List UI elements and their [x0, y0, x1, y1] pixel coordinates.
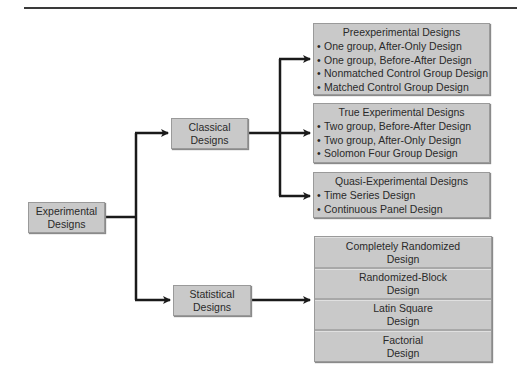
box-title: True Experimental Designs — [314, 106, 489, 119]
list-item: •Continuous Panel Design — [314, 203, 489, 217]
box-title: Preexperimental Designs — [314, 26, 489, 39]
bullet-icon: • — [317, 54, 324, 68]
node-label-line2: Designs — [193, 301, 231, 314]
node-label-line1: Randomized-Block — [359, 271, 447, 284]
bullet-icon: • — [317, 40, 324, 54]
list-item: •Nonmatched Control Group Design — [314, 67, 489, 81]
node-label-line2: Design — [387, 347, 420, 360]
factorial-design-box: Factorial Design — [315, 331, 491, 362]
list-item: •Solomon Four Group Design — [314, 147, 489, 161]
node-label-line2: Designs — [191, 134, 229, 147]
bullet-icon: • — [317, 120, 324, 134]
quasi-experimental-designs-box: Quasi-Experimental Designs •Time Series … — [313, 172, 490, 218]
bullet-icon: • — [317, 81, 324, 95]
node-label-line1: Completely Randomized — [346, 240, 460, 253]
list-item: •Two group, After-Only Design — [314, 134, 489, 148]
node-label-line1: Factorial — [383, 334, 423, 347]
node-label-line2: Design — [387, 315, 420, 328]
list-item: •Two group, Before-After Design — [314, 120, 489, 134]
bullet-icon: • — [317, 147, 324, 161]
classical-designs-node: Classical Designs — [171, 118, 248, 149]
bullet-icon: • — [317, 67, 324, 81]
bullet-icon: • — [317, 203, 324, 217]
node-label-line1: Classical — [188, 121, 230, 134]
node-label-line2: Design — [387, 284, 420, 297]
preexperimental-designs-box: Preexperimental Designs •One group, Afte… — [313, 23, 490, 95]
list-item-text: Nonmatched Control Group Design — [324, 67, 488, 79]
statistical-designs-node: Statistical Designs — [173, 285, 251, 316]
list-item-text: Two group, Before-After Design — [324, 120, 471, 132]
list-item-text: Two group, After-Only Design — [324, 134, 461, 146]
list-item: •Matched Control Group Design — [314, 81, 489, 95]
true-experimental-designs-box: True Experimental Designs •Two group, Be… — [313, 103, 490, 163]
list-item-text: Matched Control Group Design — [324, 81, 469, 93]
randomized-block-design-box: Randomized-Block Design — [315, 269, 491, 300]
box-title: Quasi-Experimental Designs — [314, 175, 489, 188]
latin-square-design-box: Latin Square Design — [315, 300, 491, 331]
list-item-text: One group, After-Only Design — [324, 40, 462, 52]
list-item: •One group, Before-After Design — [314, 54, 489, 68]
completely-randomized-design-box: Completely Randomized Design — [315, 237, 491, 269]
bullet-icon: • — [317, 189, 324, 203]
list-item-text: Continuous Panel Design — [324, 203, 443, 215]
list-item-text: Time Series Design — [324, 189, 415, 201]
node-label-line1: Experimental — [36, 205, 97, 218]
statistical-designs-stack: Completely Randomized Design Randomized-… — [314, 236, 492, 362]
list-item-text: One group, Before-After Design — [324, 54, 472, 66]
node-label-line1: Statistical — [190, 288, 235, 301]
experimental-designs-node: Experimental Designs — [28, 202, 105, 233]
list-item-text: Solomon Four Group Design — [324, 147, 458, 159]
node-label-line2: Design — [387, 253, 420, 266]
list-item: •Time Series Design — [314, 189, 489, 203]
list-item: •One group, After-Only Design — [314, 40, 489, 54]
bullet-icon: • — [317, 134, 324, 148]
node-label-line2: Designs — [48, 218, 86, 231]
node-label-line1: Latin Square — [373, 302, 433, 315]
